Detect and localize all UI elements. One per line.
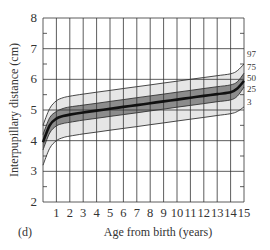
growth-chart: 2345678 123456789101112131415 977550253 …: [0, 0, 270, 250]
percentile-label-50: 50: [247, 73, 257, 83]
x-tick: 4: [93, 206, 100, 220]
x-tick: 12: [198, 206, 211, 220]
y-tick: 3: [31, 163, 38, 178]
y-tick: 6: [31, 71, 38, 86]
x-tick: 11: [184, 206, 196, 220]
x-tick: 8: [147, 206, 153, 220]
y-tick: 4: [31, 133, 38, 148]
percentile-label-97: 97: [247, 49, 257, 59]
y-tick: 8: [31, 10, 38, 25]
y-tick: 7: [31, 41, 38, 56]
percentile-label-75: 75: [247, 62, 257, 72]
x-tick: 1: [53, 206, 59, 220]
x-tick: 7: [134, 206, 140, 220]
x-tick: 10: [171, 206, 184, 220]
x-tick: 2: [67, 206, 73, 220]
x-tick-labels: 123456789101112131415: [53, 206, 250, 220]
percentile-labels: 977550253: [247, 49, 257, 107]
x-tick: 14: [224, 206, 237, 220]
x-tick: 9: [160, 206, 166, 220]
x-tick: 6: [120, 206, 126, 220]
panel-label: (d): [18, 225, 32, 239]
y-tick-labels: 2345678: [31, 10, 38, 209]
x-tick: 3: [80, 206, 86, 220]
x-tick: 5: [107, 206, 113, 220]
percentile-label-3: 3: [247, 97, 252, 107]
y-tick: 2: [31, 194, 38, 209]
percentile-label-25: 25: [247, 84, 257, 94]
y-tick: 5: [31, 102, 38, 117]
x-axis-label: Age from birth (years): [104, 225, 212, 239]
x-tick: 13: [211, 206, 224, 220]
x-tick: 15: [238, 206, 251, 220]
grid: [43, 18, 244, 202]
y-axis-label: Interpupillary distance (cm): [7, 43, 21, 177]
